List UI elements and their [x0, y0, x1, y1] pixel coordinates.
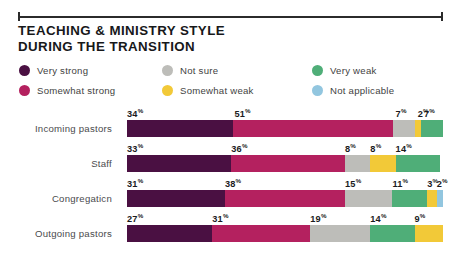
bar-row-value-labels: 27%31%19%14%9%	[127, 209, 443, 225]
rule-tick-right	[441, 12, 443, 21]
bar-segment-value: 19%	[310, 212, 326, 224]
bar-segment	[345, 155, 370, 172]
header-rule	[18, 12, 443, 21]
bar-segment-value: 36%	[231, 142, 247, 154]
bar-segment	[421, 120, 443, 137]
legend-swatch-very_weak-icon	[312, 65, 323, 76]
bar-segment-value: 14%	[370, 212, 386, 224]
bar-segment-value: 9%	[415, 212, 426, 224]
legend-swatch-somewhat_weak-icon	[162, 85, 173, 96]
percent-symbol: %	[236, 177, 242, 184]
legend-label: Very strong	[37, 65, 88, 76]
bar-row-value-labels: 31%38%15%11%3%2%	[127, 174, 443, 190]
legend-item-not_applicable: Not applicable	[312, 85, 444, 96]
bar-segment	[396, 155, 440, 172]
percent-symbol: %	[245, 107, 251, 114]
legend-item-not_sure: Not sure	[162, 65, 312, 76]
legend-item-somewhat_strong: Somewhat strong	[19, 85, 162, 96]
rule-line	[18, 16, 443, 18]
bar-segment-value: 11%	[392, 177, 408, 189]
bar-row-value-labels: 33%36%8%8%14%	[127, 139, 443, 155]
bar-segment	[310, 225, 370, 242]
bar-segment	[233, 120, 393, 137]
legend-label: Somewhat strong	[37, 85, 115, 96]
bar-segment-value: 51%	[234, 107, 250, 119]
bar-segment	[231, 155, 345, 172]
percent-symbol: %	[420, 212, 426, 219]
bar-row-track	[127, 225, 443, 242]
bar-segment	[345, 190, 392, 207]
bar-segment-value: 31%	[212, 212, 228, 224]
percent-symbol: %	[401, 107, 407, 114]
bar-segment	[212, 225, 310, 242]
legend-swatch-somewhat_strong-icon	[19, 85, 30, 96]
bar-row-label: Incoming pastors	[0, 123, 112, 134]
chart-title: TEACHING & MINISTRY STYLE DURING THE TRA…	[18, 23, 438, 54]
legend-label: Not sure	[180, 65, 218, 76]
bar-row-track	[127, 155, 443, 172]
percent-symbol: %	[138, 212, 144, 219]
bar-segment-value: 7%	[396, 107, 407, 119]
percent-symbol: %	[138, 177, 144, 184]
chart-plot-area: Incoming pastors34%51%7%2%7%Staff33%36%8…	[0, 104, 461, 244]
bar-segment-value: 7%	[424, 107, 435, 119]
bar-segment	[415, 225, 443, 242]
bar-segment	[437, 190, 443, 207]
bar-segment	[127, 225, 212, 242]
bar-segment	[392, 190, 427, 207]
bar-segment-value: 31%	[127, 177, 143, 189]
bar-row: Incoming pastors34%51%7%2%7%	[0, 104, 461, 139]
percent-symbol: %	[381, 212, 387, 219]
legend-swatch-not_sure-icon	[162, 65, 173, 76]
bar-segment-value: 14%	[396, 142, 412, 154]
bar-segment-value: 8%	[370, 142, 381, 154]
bar-segment	[127, 155, 231, 172]
percent-symbol: %	[138, 107, 144, 114]
legend-item-very_weak: Very weak	[312, 65, 444, 76]
bar-segment	[225, 190, 345, 207]
bar-row-label: Staff	[0, 158, 112, 169]
bar-row-value-labels: 34%51%7%2%7%	[127, 104, 443, 120]
percent-symbol: %	[376, 142, 382, 149]
bar-segment-value: 15%	[345, 177, 361, 189]
percent-symbol: %	[321, 212, 327, 219]
bar-segment	[427, 190, 436, 207]
percent-symbol: %	[403, 177, 409, 184]
bar-segment	[370, 155, 395, 172]
bar-segment-value: 8%	[345, 142, 356, 154]
legend-label: Somewhat weak	[180, 85, 254, 96]
legend-swatch-very_strong-icon	[19, 65, 30, 76]
percent-symbol: %	[429, 107, 435, 114]
bar-segment-value: 34%	[127, 107, 143, 119]
bar-row: Staff33%36%8%8%14%	[0, 139, 461, 174]
legend-label: Very weak	[330, 65, 377, 76]
bar-segment-value: 33%	[127, 142, 143, 154]
bar-row: Congregaticn31%38%15%11%3%2%	[0, 174, 461, 209]
percent-symbol: %	[356, 177, 362, 184]
percent-symbol: %	[442, 177, 448, 184]
bar-segment-value: 2%	[437, 177, 448, 189]
bar-segment	[127, 190, 225, 207]
percent-symbol: %	[138, 142, 144, 149]
percent-symbol: %	[223, 212, 229, 219]
percent-symbol: %	[242, 142, 248, 149]
bar-segment-value: 38%	[225, 177, 241, 189]
bar-row-track	[127, 120, 443, 137]
chart-title-line-2: DURING THE TRANSITION	[18, 39, 438, 55]
bar-segment-value: 27%	[127, 212, 143, 224]
legend-item-very_strong: Very strong	[19, 65, 162, 76]
legend-item-somewhat_weak: Somewhat weak	[162, 85, 312, 96]
bar-segment	[370, 225, 414, 242]
legend-label: Not applicable	[330, 85, 394, 96]
chart-legend: Very strongNot sureVery weakSomewhat str…	[19, 60, 444, 100]
bar-segment	[393, 120, 415, 137]
chart-title-line-1: TEACHING & MINISTRY STYLE	[18, 23, 225, 38]
percent-symbol: %	[406, 142, 412, 149]
bar-segment	[127, 120, 233, 137]
bar-row: Outgoing pastors27%31%19%14%9%	[0, 209, 461, 244]
bar-row-track	[127, 190, 443, 207]
bar-row-label: Outgoing pastors	[0, 228, 112, 239]
percent-symbol: %	[350, 142, 356, 149]
bar-row-label: Congregaticn	[0, 193, 112, 204]
legend-swatch-not_applicable-icon	[312, 85, 323, 96]
